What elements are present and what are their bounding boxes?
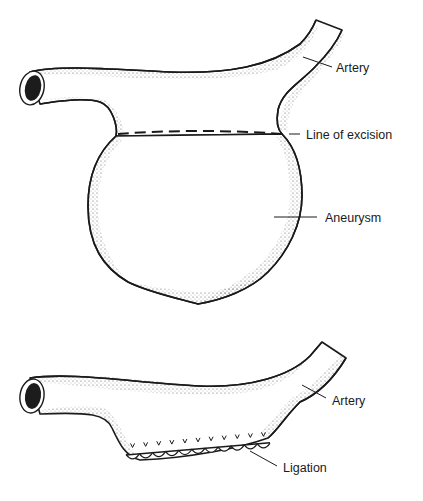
label-aneurysm: Aneurysm (325, 211, 381, 225)
top-panel: Artery Line of excision Aneurysm (17, 20, 392, 304)
label-artery-top: Artery (336, 61, 370, 75)
label-ligation: Ligation (283, 461, 327, 475)
label-artery-bottom: Artery (332, 394, 366, 408)
aneurysm-excision-diagram: Artery Line of excision Aneurysm Artery … (0, 0, 423, 501)
bottom-panel: Artery Ligation (18, 342, 366, 475)
artery-with-aneurysm (30, 20, 344, 304)
artery-left-lower-outline (40, 100, 116, 136)
label-line-of-excision: Line of excision (306, 128, 392, 142)
ligation-leader (250, 451, 277, 466)
aneurysm-sac (88, 134, 302, 304)
